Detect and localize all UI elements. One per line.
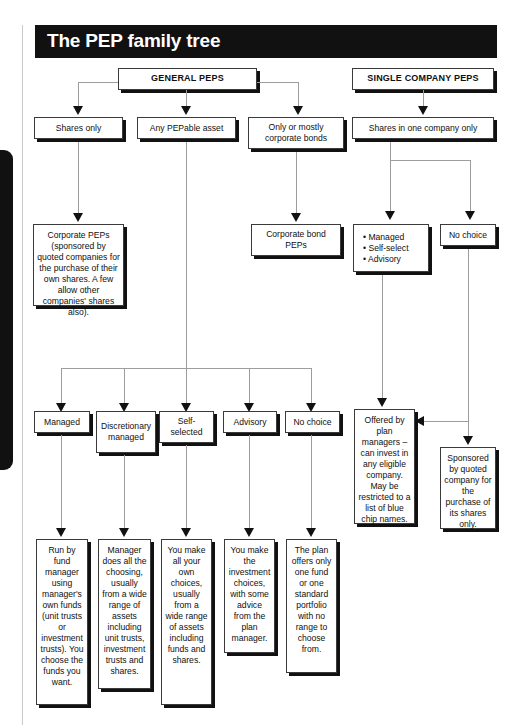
node-shares-only: Shares only xyxy=(34,117,123,139)
connector-self-selected-detail-v xyxy=(186,445,187,533)
page-thumb-tab xyxy=(0,150,13,470)
connector-to-no-choice-single-v xyxy=(470,160,471,213)
node-advisory-detail: You make the investment choices, with so… xyxy=(224,539,275,653)
connector-to-managed-list-v xyxy=(390,160,391,213)
node-discretionary-detail: Manager does all the choosing, usually f… xyxy=(98,539,151,689)
connector-general-left-h xyxy=(78,82,118,83)
arrow-to-no-choice-detail xyxy=(306,528,316,537)
connector-general-left-v xyxy=(78,82,79,108)
connector-single-split-h xyxy=(390,160,471,161)
arrow-to-shares-one-company xyxy=(418,106,428,115)
node-any-pepable-asset: Any PEPable asset xyxy=(137,117,236,139)
bullet-managed: • Managed xyxy=(363,232,425,243)
arrow-to-shares-only xyxy=(73,106,83,115)
node-discretionary-managed: Discretionary managed xyxy=(96,411,156,453)
node-corporate-bonds: Only or mostly corporate bonds xyxy=(248,117,344,149)
connector-to-advisory xyxy=(249,368,250,408)
node-self-selected: Self-selected xyxy=(159,411,214,443)
page-title-banner: The PEP family tree xyxy=(35,25,497,58)
connector-managed-detail-v xyxy=(61,435,62,533)
node-offered-by-plan-managers: Offered by plan managers – can invest in… xyxy=(354,409,415,524)
node-corporate-peps: Corporate PEPs (sponsored by quoted comp… xyxy=(33,224,124,306)
node-managed: Managed xyxy=(34,411,90,433)
connector-to-self-selected xyxy=(186,368,187,408)
arrow-to-corporate-peps xyxy=(73,213,83,222)
node-self-selected-detail: You make all your own choices, usually f… xyxy=(161,539,212,705)
bullet-advisory: • Advisory xyxy=(363,254,425,265)
connector-advisory-detail-v xyxy=(249,435,250,533)
arrow-to-sponsored-by-quoted-company xyxy=(463,436,473,445)
connector-no-choice-detail-v xyxy=(311,435,312,533)
arrow-into-offered-box xyxy=(415,416,424,426)
arrow-to-managed-list xyxy=(385,211,395,220)
node-shares-one-company: Shares in one company only xyxy=(352,117,494,139)
node-advisory: Advisory xyxy=(223,411,277,433)
node-no-choice: No choice xyxy=(285,411,340,433)
connector-no-choice-single-h xyxy=(424,421,468,422)
arrow-to-corporate-bonds xyxy=(293,106,303,115)
node-single-company-peps: SINGLE COMPANY PEPS xyxy=(352,68,494,90)
node-managed-detail: Run by fund manager using manager's own … xyxy=(36,539,88,705)
connector-single-split-stem xyxy=(390,142,391,160)
arrow-to-offered-by-plan-managers xyxy=(377,398,387,407)
page-title: The PEP family tree xyxy=(47,30,220,52)
node-no-choice-detail: The plan offers only one fund or one sta… xyxy=(286,539,337,673)
arrow-to-advisory-detail xyxy=(244,528,254,537)
connector-corporate-bonds-v xyxy=(296,152,297,215)
connector-pepable-stem xyxy=(186,142,187,368)
arrow-to-no-choice-single xyxy=(465,211,475,220)
connector-shares-only-v xyxy=(78,142,79,215)
page-margin-rule xyxy=(22,25,23,725)
connector-no-choice-single-v xyxy=(468,249,469,443)
node-no-choice-single: No choice xyxy=(440,224,496,246)
connector-to-offered-v xyxy=(382,275,383,401)
arrow-to-managed-detail xyxy=(56,528,66,537)
connector-to-discretionary xyxy=(124,368,125,408)
node-managed-self-advisory: • Managed • Self-select • Advisory xyxy=(353,224,429,272)
connector-to-no-choice xyxy=(311,368,312,408)
bullet-self-select: • Self-select xyxy=(363,243,425,254)
node-corporate-bond-peps: Corporate bond PEPs xyxy=(251,224,341,256)
connector-general-right-v xyxy=(298,82,299,108)
arrow-to-corporate-bond-peps xyxy=(291,213,301,222)
node-general-peps: GENERAL PEPS xyxy=(118,68,257,90)
connector-to-managed xyxy=(61,368,62,408)
arrow-to-any-pepable-asset xyxy=(181,106,191,115)
arrow-to-discretionary-detail xyxy=(119,528,129,537)
connector-general-right-h xyxy=(257,82,299,83)
arrow-to-self-selected-detail xyxy=(181,528,191,537)
node-sponsored-by-quoted-company: Sponsored by quoted company for the purc… xyxy=(440,447,496,529)
pep-family-tree-diagram: The PEP family tree GENERAL PEPS SINGLE … xyxy=(0,0,507,725)
connector-discretionary-detail-v xyxy=(124,455,125,533)
